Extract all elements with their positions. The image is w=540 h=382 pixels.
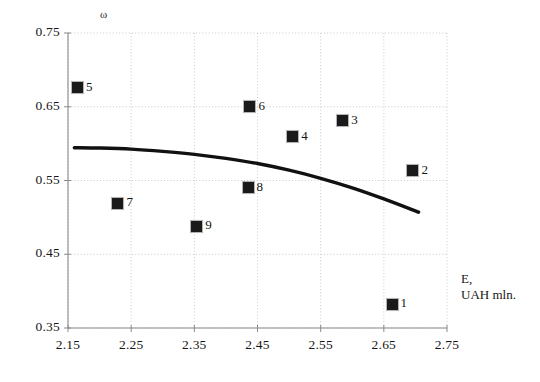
plot-canvas [0, 0, 540, 382]
data-point-label: 7 [126, 194, 133, 210]
x-axis-title-line1: E, [461, 271, 472, 287]
data-point-label: 3 [351, 112, 358, 128]
data-point-label: 8 [257, 179, 264, 195]
data-point-marker [387, 299, 398, 310]
x-axis-tick-label: 2.15 [42, 337, 94, 353]
x-axis-tick-label: 2.75 [421, 337, 473, 353]
chart-figure: 0.750.650.550.450.35 2.152.252.352.452.5… [0, 0, 540, 382]
data-point-marker [243, 182, 254, 193]
data-point-label: 2 [421, 162, 428, 178]
data-point-label: 1 [401, 295, 408, 311]
data-point-marker [72, 82, 83, 93]
data-point-marker [407, 165, 418, 176]
x-axis-tick-label: 2.35 [168, 337, 220, 353]
data-point-label: 9 [205, 217, 212, 233]
y-axis-tick-label: 0.35 [10, 319, 60, 335]
y-axis-title: ω [100, 8, 107, 20]
y-axis-tick-label: 0.75 [10, 24, 60, 40]
data-point-label: 6 [258, 98, 265, 114]
x-axis-tick-label: 2.65 [358, 337, 410, 353]
data-point-marker [244, 101, 255, 112]
data-point-label: 4 [301, 128, 308, 144]
data-point-marker [112, 198, 123, 209]
x-axis-tick-label: 2.45 [232, 337, 284, 353]
data-point-marker [191, 221, 202, 232]
axis-lines [64, 33, 447, 332]
x-axis-tick-label: 2.25 [105, 337, 157, 353]
data-point-marker [337, 115, 348, 126]
data-point-label: 5 [86, 79, 93, 95]
data-point-marker [287, 131, 298, 142]
y-axis-tick-label: 0.45 [10, 245, 60, 261]
x-axis-tick-label: 2.55 [295, 337, 347, 353]
y-axis-tick-label: 0.55 [10, 172, 60, 188]
y-axis-tick-label: 0.65 [10, 98, 60, 114]
x-axis-title-line2: UAH mln. [461, 287, 516, 303]
